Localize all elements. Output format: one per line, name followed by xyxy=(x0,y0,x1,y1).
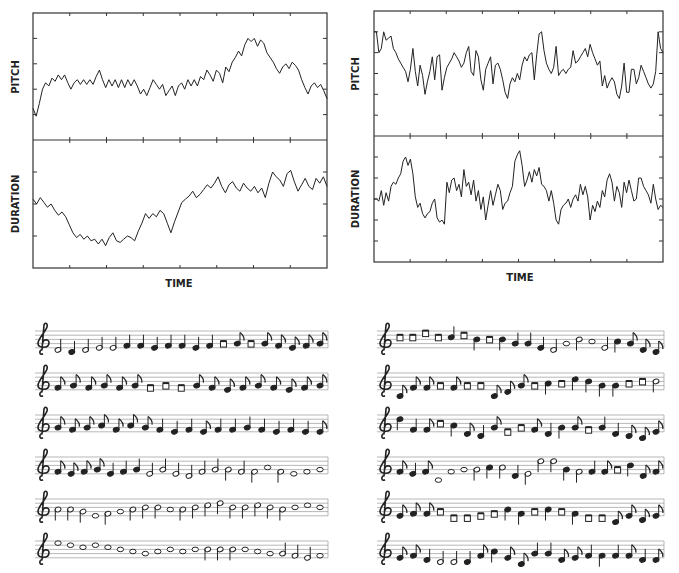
note xyxy=(254,549,260,554)
note xyxy=(238,461,245,475)
treble-clef-icon xyxy=(380,449,391,480)
note xyxy=(270,377,280,391)
treble-clef-icon xyxy=(38,491,49,522)
note xyxy=(518,553,528,567)
right-notation xyxy=(340,300,679,573)
note xyxy=(437,421,443,427)
note xyxy=(304,503,310,508)
note xyxy=(435,335,441,341)
note xyxy=(461,333,467,339)
note xyxy=(303,335,313,349)
note xyxy=(180,549,186,554)
note xyxy=(450,377,460,391)
note xyxy=(477,545,487,559)
note xyxy=(410,545,420,559)
note xyxy=(215,419,222,433)
treble-clef-icon xyxy=(380,407,391,438)
note xyxy=(291,545,298,559)
note xyxy=(165,335,172,349)
note xyxy=(220,341,226,347)
note xyxy=(54,506,61,520)
note xyxy=(275,335,285,349)
note xyxy=(113,419,123,433)
note xyxy=(239,377,249,391)
note xyxy=(626,381,632,387)
note xyxy=(55,541,61,546)
note xyxy=(396,461,406,475)
note xyxy=(98,415,108,429)
note xyxy=(163,383,169,389)
note xyxy=(178,385,184,391)
note xyxy=(640,379,646,385)
left-staff-2 xyxy=(35,365,328,396)
note xyxy=(586,515,592,521)
note xyxy=(614,338,621,352)
note xyxy=(80,545,86,550)
note xyxy=(640,339,650,353)
note xyxy=(254,502,261,516)
note xyxy=(410,335,416,341)
note xyxy=(192,547,198,552)
note xyxy=(450,422,457,436)
note xyxy=(504,381,514,395)
note xyxy=(410,377,420,391)
note xyxy=(410,419,417,433)
note xyxy=(639,549,646,563)
note xyxy=(54,461,64,475)
note xyxy=(229,419,236,433)
right-staff-4 xyxy=(377,449,664,485)
treble-clef-icon xyxy=(380,323,391,354)
note xyxy=(206,335,213,349)
note xyxy=(423,377,433,391)
note xyxy=(67,506,74,520)
note xyxy=(486,464,493,478)
left-notation xyxy=(0,300,340,573)
note xyxy=(397,335,403,341)
note xyxy=(317,505,323,510)
note xyxy=(491,385,501,399)
note xyxy=(545,423,552,437)
note xyxy=(129,506,136,520)
note xyxy=(304,469,310,474)
plot-left xyxy=(33,13,327,268)
note xyxy=(518,511,525,525)
note xyxy=(301,377,311,391)
note xyxy=(104,511,111,525)
note xyxy=(156,419,163,433)
note xyxy=(612,511,622,525)
note xyxy=(137,335,144,349)
note xyxy=(504,506,511,520)
right-staff-5 xyxy=(377,491,664,525)
note xyxy=(448,326,455,340)
note xyxy=(559,509,565,515)
note xyxy=(267,551,273,556)
right-staff-6 xyxy=(377,533,664,567)
note xyxy=(464,383,470,389)
note xyxy=(640,465,650,479)
right-music-staves xyxy=(340,300,679,573)
left-plot-panel: PITCH DURATION TIME xyxy=(0,0,340,295)
treble-clef-icon xyxy=(38,533,49,564)
note xyxy=(81,461,91,475)
note xyxy=(54,377,64,391)
note xyxy=(478,513,484,519)
left-time-xlabel: TIME xyxy=(165,278,192,289)
note xyxy=(505,429,511,435)
right-time-xlabel: TIME xyxy=(506,272,533,283)
note xyxy=(209,377,219,391)
duration-series-line xyxy=(33,170,327,245)
note xyxy=(559,381,565,387)
left-duration-ylabel: DURATION xyxy=(10,175,21,234)
note xyxy=(612,545,619,559)
note xyxy=(518,425,524,431)
note xyxy=(120,461,127,475)
note xyxy=(185,419,192,433)
left-staff-4 xyxy=(35,449,328,482)
left-staff-5 xyxy=(35,491,328,524)
note xyxy=(612,423,619,437)
note xyxy=(652,549,662,563)
note xyxy=(116,377,126,391)
note xyxy=(524,471,531,485)
note xyxy=(532,383,538,389)
note xyxy=(464,515,470,521)
